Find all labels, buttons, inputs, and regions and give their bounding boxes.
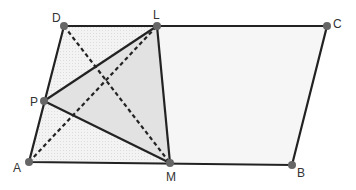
- label-p: P: [30, 95, 38, 109]
- label-c: C: [333, 17, 342, 31]
- point-l: [153, 22, 161, 30]
- point-p: [40, 97, 48, 105]
- point-d: [60, 22, 68, 30]
- point-a: [25, 158, 33, 166]
- point-c: [323, 22, 331, 30]
- label-d: D: [52, 11, 61, 25]
- label-m: M: [166, 170, 176, 184]
- label-a: A: [13, 161, 21, 175]
- point-b: [288, 161, 296, 169]
- geometry-diagram: A B C D L M P: [0, 0, 356, 190]
- label-l: L: [153, 8, 160, 22]
- label-b: B: [297, 166, 305, 180]
- point-m: [166, 159, 174, 167]
